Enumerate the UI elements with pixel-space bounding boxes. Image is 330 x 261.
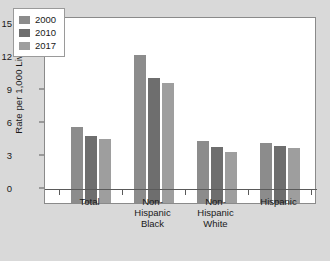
y-tick-label: 6: [0, 117, 12, 128]
bar[interactable]: [99, 139, 111, 203]
legend-swatch-icon: [19, 16, 30, 24]
bar-group: [134, 32, 174, 203]
legend-item[interactable]: 2010: [19, 26, 56, 39]
plot-area: [45, 18, 315, 203]
x-tick-mark: [185, 190, 186, 195]
bar-group: [260, 32, 300, 203]
chart-legend: 200020102017: [13, 8, 65, 57]
x-tick-mark: [59, 190, 60, 195]
plot-panel: [44, 17, 316, 204]
y-tick-label: 9: [0, 84, 12, 95]
x-axis-line: [45, 189, 317, 190]
y-tick-mark: [39, 155, 44, 156]
legend-swatch-icon: [19, 42, 30, 50]
bar[interactable]: [85, 136, 97, 203]
bar[interactable]: [162, 83, 174, 203]
bar[interactable]: [148, 78, 160, 203]
legend-label: 2010: [35, 27, 56, 38]
y-tick-label: 15: [0, 18, 12, 29]
y-tick-label: 12: [0, 51, 12, 62]
bar-group: [71, 32, 111, 203]
bar[interactable]: [71, 127, 83, 203]
bar[interactable]: [288, 148, 300, 203]
y-tick-mark: [39, 188, 44, 189]
legend-swatch-icon: [19, 29, 30, 37]
bar[interactable]: [260, 143, 272, 204]
bar[interactable]: [134, 55, 146, 204]
bar[interactable]: [274, 146, 286, 203]
x-tick-mark: [248, 190, 249, 195]
chart-figure: Rate per 1,000 Live Births 03691215 Tota…: [0, 0, 330, 261]
y-tick-mark: [39, 89, 44, 90]
x-tick-mark: [311, 190, 312, 195]
y-tick-label: 3: [0, 150, 12, 161]
legend-label: 2000: [35, 14, 56, 25]
bar[interactable]: [211, 147, 223, 203]
legend-label: 2017: [35, 40, 56, 51]
bar[interactable]: [197, 141, 209, 203]
x-tick-mark: [122, 190, 123, 195]
bar-group: [197, 32, 237, 203]
legend-item[interactable]: 2017: [19, 39, 56, 52]
y-tick-label: 0: [0, 183, 12, 194]
x-axis-category-label: Hispanic: [239, 196, 319, 207]
y-tick-mark: [39, 122, 44, 123]
legend-item[interactable]: 2000: [19, 13, 56, 26]
